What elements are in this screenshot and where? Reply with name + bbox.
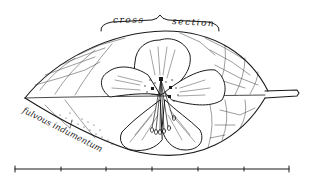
botanical-illustration: cross section xyxy=(0,0,318,182)
section-label: section xyxy=(172,16,216,28)
cross-label: cross xyxy=(113,15,145,25)
leaf-flower-drawing: cross section xyxy=(0,0,318,182)
scale-bar xyxy=(15,166,289,172)
indumentum-label: fulvous indumentum xyxy=(20,104,104,154)
